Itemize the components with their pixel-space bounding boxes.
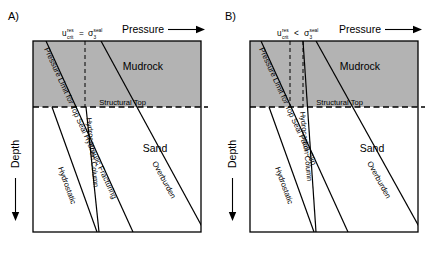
panel-b-pressure-label: Pressure <box>339 23 381 35</box>
panel-a-depth-arrow-head <box>12 212 19 221</box>
panel-b: B) Pressure Depth <box>217 0 433 276</box>
panel-a-plot: A) Pressure Depth <box>0 0 216 276</box>
panel-b-pressure-arrow-head <box>413 26 422 33</box>
panel-a-criterion-lhs-sub: crit <box>67 35 74 40</box>
panel-a-criterion-formula: u crit res = σ 3 seal <box>62 28 102 40</box>
panel-b-letter: B) <box>225 10 236 22</box>
panel-b-criterion-rhs-sup: seal <box>310 28 319 33</box>
panel-a-criterion-operator: = <box>79 29 84 38</box>
panel-b-depth-label: Depth <box>226 140 238 168</box>
panel-a-depth-label: Depth <box>9 140 21 168</box>
panel-a-pressure-label: Pressure <box>122 23 164 35</box>
panel-b-criterion-lhs-sub: crit <box>282 35 289 40</box>
panel-a-letter: A) <box>8 10 19 22</box>
panel-a-sand-label: Sand <box>143 142 168 154</box>
panel-a-criterion-lhs-sup: res <box>67 28 74 33</box>
figure-root: A) Pressure Depth <box>0 0 433 276</box>
panel-a-criterion-rhs-sup: seal <box>94 28 103 33</box>
panel-b-criterion-rhs-sub: 3 <box>310 35 313 40</box>
panel-a-structural-top-label: Structural Top <box>99 98 146 107</box>
panel-b-criterion-lhs-sup: res <box>282 28 289 33</box>
panel-a: A) Pressure Depth <box>0 0 216 276</box>
panel-b-criterion-operator: < <box>294 29 299 38</box>
panel-b-plot: B) Pressure Depth <box>217 0 433 276</box>
panel-b-mudrock-label: Mudrock <box>340 60 381 72</box>
panel-b-criterion-formula: u crit res < σ 3 seal <box>277 28 318 40</box>
panel-a-criterion-rhs-sub: 3 <box>94 35 97 40</box>
panel-a-pressure-arrow-head <box>196 26 205 33</box>
panel-b-sand-label: Sand <box>360 142 385 154</box>
panel-b-structural-top-label: Structural Top <box>316 98 363 107</box>
panel-a-mudrock-label: Mudrock <box>123 60 164 72</box>
panel-b-depth-arrow-head <box>229 212 236 221</box>
